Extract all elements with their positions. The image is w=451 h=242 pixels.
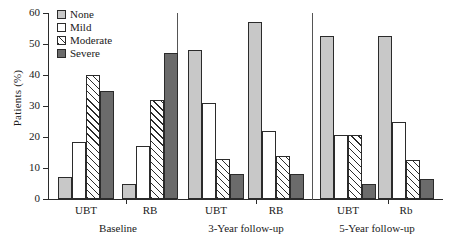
legend: None Mild Moderate Severe [57,8,112,60]
bar-none-0 [58,177,72,199]
legend-label-none: None [70,9,94,20]
y-tick-label-10: 10 [16,162,40,173]
y-axis-label: Patients (%) [11,53,23,143]
x-axis-line [48,199,443,200]
bar-severe-5 [420,179,434,199]
y-tick-label-40: 40 [16,69,40,80]
bar-severe-4 [362,184,376,200]
y-axis-line [48,13,49,200]
x-category-label-5: Rb [381,204,431,216]
x-category-label-4: UBT [323,204,373,216]
x-group-label-1: 3-Year follow-up [186,222,306,234]
x-group-label-0: Baseline [58,222,178,234]
legend-swatch-mild-icon [57,23,66,32]
bar-chart-figure: Patients (%) 0102030405060 UBTRBUBTRBUBT… [0,0,451,242]
x-category-label-1: RB [125,204,175,216]
y-tick-label-30: 30 [16,100,40,111]
x-category-label-2: UBT [191,204,241,216]
bar-severe-0 [100,91,114,200]
bar-moderate-0 [86,75,100,199]
y-tick-30 [43,106,48,107]
group-separator-2 [312,13,313,200]
legend-item-moderate: Moderate [57,34,112,47]
bar-moderate-2 [216,159,230,199]
y-tick-label-60: 60 [16,7,40,18]
bar-mild-3 [262,131,276,199]
y-tick-0 [43,199,48,200]
bar-severe-2 [230,174,244,199]
bar-none-5 [378,36,392,199]
legend-item-mild: Mild [57,21,112,34]
bar-none-4 [320,36,334,199]
bar-mild-1 [136,146,150,199]
x-group-label-2: 5-Year follow-up [317,222,437,234]
bar-severe-1 [164,53,178,199]
legend-swatch-none-icon [57,10,66,19]
y-tick-10 [43,168,48,169]
legend-label-mild: Mild [70,22,91,33]
y-tick-60 [43,13,48,14]
y-tick-40 [43,75,48,76]
bar-moderate-1 [150,100,164,199]
bar-moderate-5 [406,160,420,199]
y-tick-label-0: 0 [16,193,40,204]
bar-mild-0 [72,142,86,199]
legend-item-none: None [57,8,112,21]
x-category-label-0: UBT [61,204,111,216]
y-tick-50 [43,44,48,45]
y-tick-20 [43,137,48,138]
bar-severe-3 [290,174,304,199]
bar-none-3 [248,22,262,199]
bar-none-1 [122,184,136,200]
legend-swatch-moderate-icon [57,36,66,45]
bar-mild-5 [392,122,406,200]
legend-item-severe: Severe [57,47,112,60]
bar-moderate-3 [276,156,290,199]
legend-label-severe: Severe [70,48,100,59]
legend-label-moderate: Moderate [70,35,112,46]
bar-moderate-4 [348,135,362,199]
x-category-label-3: RB [251,204,301,216]
bar-mild-4 [334,135,348,199]
bar-none-2 [188,50,202,199]
bar-mild-2 [202,103,216,199]
y-tick-label-20: 20 [16,131,40,142]
y-tick-label-50: 50 [16,38,40,49]
legend-swatch-severe-icon [57,49,66,58]
